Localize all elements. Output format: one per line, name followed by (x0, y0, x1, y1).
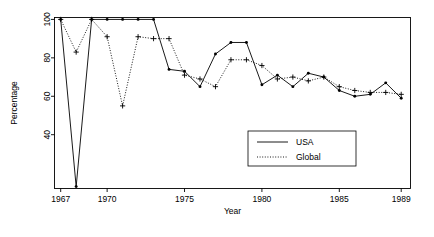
data-point-marker (121, 18, 124, 21)
data-point-marker (383, 90, 388, 95)
x-tick-label: 1989 (392, 194, 411, 204)
data-point-marker (137, 18, 140, 21)
data-point-marker (259, 63, 264, 68)
legend-label-global: Global (296, 152, 321, 162)
data-point-marker (120, 103, 125, 108)
data-point-marker (353, 95, 356, 98)
data-point-marker (199, 85, 202, 88)
data-point-marker (214, 53, 217, 56)
y-tick-label: 100 (43, 12, 53, 26)
x-axis-ticks (61, 189, 402, 193)
data-point-marker (197, 76, 202, 81)
x-tick-label: 1985 (330, 194, 349, 204)
data-point-marker (152, 18, 155, 21)
x-tick-label: 1967 (51, 194, 70, 204)
data-point-marker (168, 68, 171, 71)
data-point-marker (75, 185, 78, 188)
data-point-marker (106, 18, 109, 21)
data-point-marker (244, 57, 249, 62)
y-tick-label: 60 (43, 91, 53, 101)
line-chart: 196719701975198019851989 406080100 Year … (0, 0, 434, 237)
y-axis-title: Percentage (9, 81, 19, 125)
data-point-marker (290, 74, 295, 79)
data-point-marker (135, 34, 140, 39)
chart-legend: USAGlobal (248, 131, 356, 166)
x-tick-label: 1975 (175, 194, 194, 204)
data-point-marker (230, 41, 233, 44)
y-tick-label: 40 (43, 130, 53, 140)
data-point-marker (260, 83, 263, 86)
data-point-marker (166, 36, 171, 41)
legend-label-usa: USA (296, 137, 314, 147)
y-axis-tick-labels: 406080100 (43, 12, 53, 139)
series-line-global (61, 19, 402, 105)
x-tick-label: 1970 (98, 194, 117, 204)
data-point-marker (151, 36, 156, 41)
y-tick-label: 80 (43, 53, 53, 63)
data-point-marker (338, 89, 341, 92)
data-point-marker (105, 34, 110, 39)
series-global (58, 17, 404, 109)
x-tick-label: 1980 (252, 194, 271, 204)
data-point-marker (384, 81, 387, 84)
data-point-marker (400, 97, 403, 100)
chart-container: 196719701975198019851989 406080100 Year … (0, 0, 434, 237)
data-point-marker (74, 49, 79, 54)
data-point-marker (352, 88, 357, 93)
x-axis-title: Year (224, 206, 241, 216)
y-axis-ticks (51, 19, 55, 134)
data-point-marker (276, 74, 279, 77)
data-point-marker (291, 85, 294, 88)
plot-frame (55, 18, 411, 189)
data-point-marker (213, 84, 218, 89)
data-point-marker (228, 57, 233, 62)
x-axis-tick-labels: 196719701975198019851989 (51, 194, 411, 204)
data-point-marker (306, 78, 311, 83)
data-point-marker (245, 41, 248, 44)
data-point-marker (307, 72, 310, 75)
